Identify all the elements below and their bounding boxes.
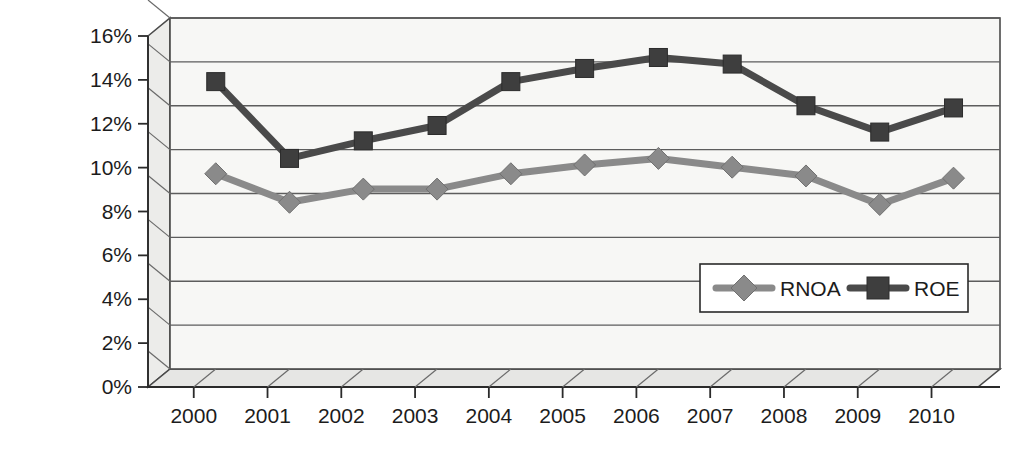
x-tick-label: 2007 <box>687 404 734 427</box>
y-tick-label: 2% <box>102 331 132 354</box>
left-side-wall <box>148 18 170 387</box>
y-tick-marks <box>138 36 148 387</box>
square-marker-icon <box>428 116 446 134</box>
x-tick-label: 2000 <box>170 404 217 427</box>
x-tick-labels: 2000200120022003200420052006200720082009… <box>170 404 954 427</box>
legend-label-roe: ROE <box>914 277 960 300</box>
y-tick-label: 16% <box>90 24 132 47</box>
line-chart: 0%2%4%6%8%10%12%14%16% 20002001200220032… <box>0 0 1016 456</box>
square-marker-icon <box>797 97 815 115</box>
y-tick-label: 12% <box>90 112 132 135</box>
chart-container: 0%2%4%6%8%10%12%14%16% 20002001200220032… <box>0 0 1016 456</box>
x-tick-label: 2010 <box>908 404 955 427</box>
square-marker-icon <box>281 149 299 167</box>
gridline-depth-connector <box>148 0 170 18</box>
square-marker-icon <box>945 99 963 117</box>
square-marker-icon <box>576 59 594 77</box>
square-marker-icon <box>207 73 225 91</box>
x-tick-label: 2003 <box>392 404 439 427</box>
x-tick-label: 2002 <box>318 404 365 427</box>
x-tick-label: 2006 <box>613 404 660 427</box>
y-tick-labels: 0%2%4%6%8%10%12%14%16% <box>90 24 132 398</box>
square-marker-icon <box>871 123 889 141</box>
square-marker-icon <box>649 48 667 66</box>
y-tick-label: 10% <box>90 156 132 179</box>
y-tick-label: 6% <box>102 243 132 266</box>
x-tick-label: 2004 <box>465 404 512 427</box>
x-tick-label: 2001 <box>244 404 291 427</box>
y-axis: 0%2%4%6%8%10%12%14%16% <box>90 24 148 398</box>
x-tick-label: 2008 <box>761 404 808 427</box>
square-marker-icon <box>502 73 520 91</box>
y-tick-label: 4% <box>102 287 132 310</box>
square-marker-icon <box>723 55 741 73</box>
legend-label-rnoa: RNOA <box>780 277 841 300</box>
square-marker-icon <box>867 277 889 299</box>
y-tick-label: 14% <box>90 68 132 91</box>
square-marker-icon <box>354 132 372 150</box>
x-tick-label: 2005 <box>539 404 586 427</box>
y-tick-label: 8% <box>102 200 132 223</box>
x-tick-label: 2009 <box>834 404 881 427</box>
y-tick-label: 0% <box>102 375 132 398</box>
chart-legend: RNOAROE <box>700 264 968 312</box>
